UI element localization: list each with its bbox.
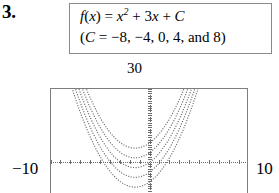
formula-equals: = <box>101 8 117 24</box>
constants-paren-close: ) <box>221 29 226 45</box>
formula-variable: x <box>89 8 96 24</box>
formula-plus-three: + 3 <box>128 8 151 24</box>
parabola-curve <box>83 89 188 148</box>
parabola-curve <box>70 89 201 187</box>
parabola-curve <box>72 89 198 177</box>
plot-canvas <box>51 89 248 193</box>
constants-symbol: C <box>85 29 95 45</box>
x-max-label: 10 <box>256 159 273 179</box>
x-min-label: −10 <box>12 159 38 179</box>
parabola-curve <box>79 89 191 158</box>
formula-box: f(x) = x2 + 3x + C (C = −8, −4, 0, 4, an… <box>69 3 272 54</box>
constants-equals: = <box>95 29 111 45</box>
formula-line-2: (C = −8, −4, 0, 4, and 8) <box>80 29 226 46</box>
y-max-label: 30 <box>127 60 142 77</box>
formula-term2-variable: x <box>152 8 159 24</box>
graph-area: 30 −10 10 <box>0 60 279 193</box>
curve-group <box>70 89 201 187</box>
constants-values: −8, −4, 0, 4, and 8 <box>111 29 221 45</box>
formula-plus-two: + <box>159 8 175 24</box>
parabola-curve <box>76 89 195 168</box>
figure-page: 3. f(x) = x2 + 3x + C (C = −8, −4, 0, 4,… <box>0 0 279 193</box>
formula-line-1: f(x) = x2 + 3x + C <box>80 8 185 25</box>
formula-constant-c: C <box>175 8 185 24</box>
plot-frame <box>50 88 248 193</box>
problem-number: 3. <box>2 1 16 22</box>
